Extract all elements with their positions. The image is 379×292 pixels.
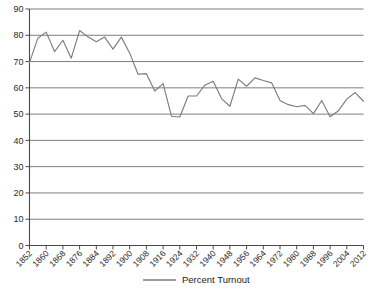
y-tick-label-50: 50 (13, 109, 23, 119)
y-tick-label-90: 90 (13, 4, 23, 14)
x-axis-tick-marks (30, 246, 364, 250)
y-tick-label-30: 30 (13, 162, 23, 172)
y-tick-label-80: 80 (13, 30, 23, 40)
y-tick-label-0: 0 (18, 241, 23, 251)
turnout-line-chart: 0102030405060708090 18521860186818761884… (0, 0, 379, 292)
legend-label-percent-turnout: Percent Turnout (182, 274, 250, 285)
chart-container: 0102030405060708090 18521860186818761884… (0, 0, 379, 292)
y-tick-label-60: 60 (13, 83, 23, 93)
y-tick-label-40: 40 (13, 136, 23, 146)
y-tick-label-20: 20 (13, 188, 23, 198)
y-tick-label-70: 70 (13, 57, 23, 67)
y-tick-label-10: 10 (13, 214, 23, 224)
plot-background (0, 0, 379, 292)
